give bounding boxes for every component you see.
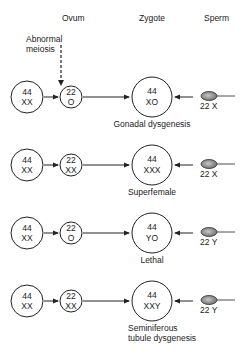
row-2: 44XX22XX44XXX22 XSuperfemale (11, 145, 235, 197)
outcome-label: Seminiferous (128, 323, 178, 333)
sperm-header: Sperm (204, 13, 229, 23)
sperm-label: 22 X (200, 101, 218, 111)
parent-sex-chromosomes: XX (21, 97, 33, 107)
sperm-label: 22 X (200, 169, 218, 179)
sperm-icon (201, 160, 217, 169)
zygote-sex-chromosomes: XXX (143, 165, 160, 175)
ovum-autosomes: 22 (66, 87, 76, 97)
outcome-label: Lethal (140, 255, 163, 265)
zygote-header: Zygote (139, 13, 165, 23)
parent-sex-chromosomes: XX (21, 301, 33, 311)
ovum-autosomes: 22 (66, 155, 76, 165)
outcome-label: Superfemale (128, 187, 176, 197)
parent-autosomes: 44 (22, 155, 32, 165)
parent-sex-chromosomes: XX (21, 233, 33, 243)
row-1: 44XX22O44XO22 XGonadal dysgenesis (11, 77, 235, 129)
annotation-line2: meiosis (26, 44, 55, 54)
parent-sex-chromosomes: XX (21, 165, 33, 175)
ovum-sex-chromosomes: XX (65, 165, 77, 175)
zygote-autosomes: 44 (147, 290, 157, 300)
sperm-icon (201, 296, 217, 305)
zygote-sex-chromosomes: XO (146, 97, 159, 107)
sperm-icon (201, 228, 217, 237)
parent-autosomes: 44 (22, 291, 32, 301)
arrowhead-icon (58, 80, 64, 86)
sperm-icon (201, 92, 217, 101)
parent-autosomes: 44 (22, 87, 32, 97)
ovum-sex-chromosomes: XX (65, 301, 77, 311)
ovum-sex-chromosomes: O (68, 97, 75, 107)
zygote-autosomes: 44 (147, 154, 157, 164)
sperm-label: 22 Y (200, 305, 218, 315)
row-3: 44XX22O44YO22 YLethal (11, 213, 235, 265)
zygote-sex-chromosomes: XXY (143, 301, 160, 311)
outcome-label: tubule dysgenesis (128, 333, 196, 343)
outcome-label: Gonadal dysgenesis (113, 119, 190, 129)
ovum-autosomes: 22 (66, 223, 76, 233)
zygote-autosomes: 44 (147, 86, 157, 96)
nondisjunction-diagram: Ovum Zygote Sperm Abnormal meiosis 44XX2… (0, 0, 245, 355)
ovum-autosomes: 22 (66, 291, 76, 301)
sperm-label: 22 Y (200, 237, 218, 247)
zygote-sex-chromosomes: YO (146, 233, 159, 243)
ovum-header: Ovum (62, 13, 85, 23)
row-4: 44XX22XX44XXY22 YSeminiferoustubule dysg… (11, 281, 235, 343)
annotation-line1: Abnormal (26, 34, 62, 44)
zygote-autosomes: 44 (147, 222, 157, 232)
parent-autosomes: 44 (22, 223, 32, 233)
ovum-sex-chromosomes: O (68, 233, 75, 243)
